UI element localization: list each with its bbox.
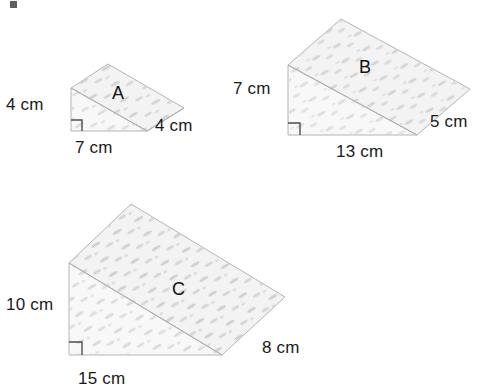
prism-b-label: B [359, 58, 371, 76]
prism-a-length-label: 7 cm [75, 139, 113, 156]
prism-a-label: A [112, 84, 124, 102]
prism-a-height-label: 4 cm [6, 96, 44, 113]
prism-b-depth-label: 5 cm [430, 113, 468, 130]
prism-b-length-label: 13 cm [336, 143, 383, 160]
prism-c-label: C [172, 280, 185, 298]
prism-c-length-label: 15 cm [78, 370, 125, 387]
prism-b-height-label: 7 cm [233, 80, 271, 97]
prism-c-height-label: 10 cm [6, 296, 53, 313]
prism-c-depth-label: 8 cm [262, 339, 300, 356]
scan-artifact-mark [10, 1, 17, 8]
prism-a-depth-label: 4 cm [155, 117, 193, 134]
